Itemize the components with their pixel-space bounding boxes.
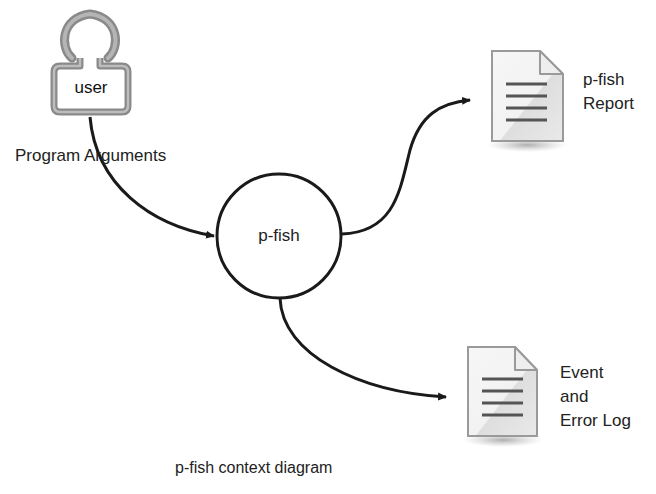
diagram-canvas (0, 0, 656, 494)
log-label: Event and Error Log (560, 361, 631, 433)
report-document-icon (487, 51, 567, 152)
flow-arrow-user-to-pfish (90, 117, 214, 236)
log-label-line: and (560, 385, 631, 409)
flow-label-program-arguments: Program Arguments (15, 146, 166, 166)
log-label-line: Error Log (560, 409, 631, 433)
flow-arrow-pfish-to-log (280, 298, 446, 397)
log-document-icon (463, 347, 543, 447)
log-label-line: Event (560, 361, 631, 385)
diagram-caption: p-fish context diagram (175, 459, 332, 477)
report-label: p-fish Report (583, 68, 634, 116)
report-label-line: p-fish (583, 68, 634, 92)
process-label: p-fish (218, 226, 340, 246)
flow-arrow-pfish-to-report (342, 100, 470, 234)
report-label-line: Report (583, 92, 634, 116)
user-entity-label: user (58, 78, 124, 98)
